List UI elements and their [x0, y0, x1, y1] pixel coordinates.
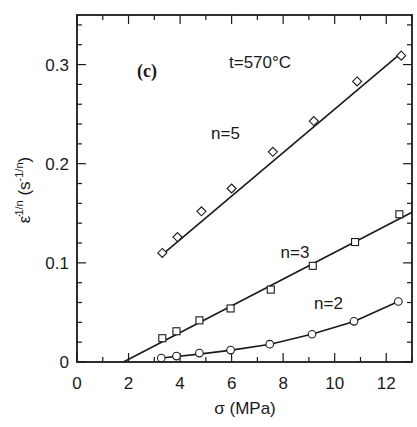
chart-svg: 024681012 00.10.20.3 n=5n=3n=2 (c) t=570… [0, 0, 417, 427]
x-tick-label: 0 [72, 374, 81, 393]
x-tick-label: 6 [227, 374, 236, 393]
chart-figure: 024681012 00.10.20.3 n=5n=3n=2 (c) t=570… [0, 0, 417, 427]
diamond-marker [227, 184, 236, 193]
panel-label: (c) [137, 61, 157, 82]
y-tick-label: 0.3 [45, 56, 69, 75]
square-marker [173, 328, 180, 335]
y-axis-title-text: ε̇1/n (s-1/n) [13, 157, 34, 223]
y-tick-label: 0.2 [45, 155, 69, 174]
circle-marker [395, 298, 403, 306]
fit-line-n5 [161, 53, 402, 256]
x-axis-title: σ (MPa) [214, 399, 276, 418]
x-tick-label: 10 [325, 374, 344, 393]
circle-marker [157, 354, 165, 362]
y-tick-label: 0 [60, 353, 69, 372]
circle-marker [173, 352, 181, 360]
y-tick-labels: 00.10.20.3 [45, 56, 69, 372]
x-tick-label: 8 [278, 374, 287, 393]
series-label: n=5 [211, 124, 240, 143]
y-axis-title-unit-open: (s [15, 181, 34, 200]
y-axis-title-unit-exp: -1/n [13, 162, 25, 181]
square-marker [267, 286, 274, 293]
square-marker [159, 335, 166, 342]
square-marker [227, 305, 234, 312]
x-tick-label: 4 [175, 374, 184, 393]
circle-marker [266, 340, 274, 348]
square-marker [196, 317, 203, 324]
temperature-annotation: t=570°C [229, 53, 291, 72]
diamond-marker [173, 233, 182, 242]
x-tick-labels: 024681012 [72, 374, 395, 393]
fit-line-n2 [161, 302, 398, 359]
circle-marker [350, 318, 358, 326]
circle-marker [227, 346, 235, 354]
diamond-marker [268, 147, 277, 156]
y-axis-title-unit-close: ) [15, 157, 34, 163]
y-axis-title-exp: 1/n [13, 200, 25, 215]
square-marker [309, 262, 316, 269]
circle-marker [308, 330, 316, 338]
series-label: n=3 [281, 243, 310, 262]
x-tick-label: 12 [377, 374, 396, 393]
y-tick-label: 0.1 [45, 254, 69, 273]
diamond-marker [353, 77, 362, 86]
series-label: n=2 [314, 294, 343, 313]
diamond-marker [397, 51, 406, 60]
square-marker [396, 211, 403, 218]
square-marker [352, 239, 359, 246]
diamond-marker [197, 207, 206, 216]
fit-lines [123, 53, 412, 362]
x-tick-label: 2 [124, 374, 133, 393]
circle-marker [196, 349, 204, 357]
y-axis-title: ε̇1/n (s-1/n) [13, 157, 34, 223]
diamond-marker [158, 248, 167, 257]
